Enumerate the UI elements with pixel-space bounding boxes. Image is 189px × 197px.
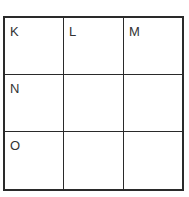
cell-1-2: L <box>64 18 124 75</box>
cell-3-1: O <box>5 132 64 189</box>
cell-3-2 <box>64 132 124 189</box>
cell-label: M <box>129 24 140 39</box>
cell-2-1: N <box>5 75 64 132</box>
cell-label: L <box>69 24 76 39</box>
cell-label: N <box>10 81 19 96</box>
cell-1-3: M <box>124 18 182 75</box>
cell-3-3 <box>124 132 182 189</box>
cell-1-1: K <box>5 18 64 75</box>
letter-grid: K L M N O <box>3 16 184 191</box>
cell-2-2 <box>64 75 124 132</box>
cell-label: O <box>10 138 20 153</box>
cell-2-3 <box>124 75 182 132</box>
cell-label: K <box>10 24 19 39</box>
